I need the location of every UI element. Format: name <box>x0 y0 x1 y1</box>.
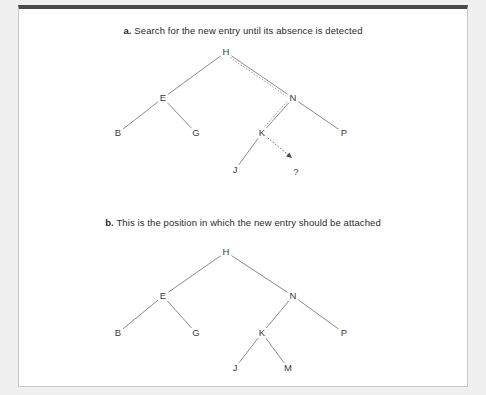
caption-part-a-text: Search for the new entry until its absen… <box>134 25 362 36</box>
caption-part-a: a. Search for the new entry until its ab… <box>0 25 486 36</box>
caption-part-b: b. This is the position in which the new… <box>0 217 486 228</box>
caption-part-b-label: b. <box>105 217 114 228</box>
figure-panel <box>18 5 468 387</box>
caption-part-a-label: a. <box>123 25 131 36</box>
caption-part-b-text: This is the position in which the new en… <box>116 217 380 228</box>
